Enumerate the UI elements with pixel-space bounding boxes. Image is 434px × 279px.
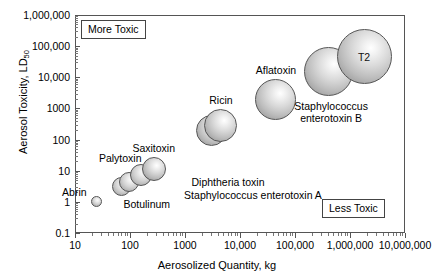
bubble-label-line: Botulinum xyxy=(123,198,170,210)
y-minor-tick xyxy=(75,115,78,116)
y-minor-tick xyxy=(75,125,78,126)
y-minor-tick xyxy=(75,121,78,122)
y-minor-tick xyxy=(75,48,78,49)
annotation-diphtheria-toxin: Diphtheria toxin xyxy=(192,176,265,188)
x-tick xyxy=(130,233,131,238)
x-tick xyxy=(75,233,76,238)
x-tick xyxy=(350,233,351,238)
bubble-label-staphylococcus-enterotoxin-b: Staphylococcusenterotoxin B xyxy=(294,100,368,124)
x-minor-tick xyxy=(266,233,267,236)
x-tick-label: 10 xyxy=(69,240,81,250)
y-minor-tick xyxy=(75,62,78,63)
y-minor-tick xyxy=(75,90,78,91)
y-minor-tick xyxy=(75,207,78,208)
y-minor-tick xyxy=(75,172,78,173)
y-minor-tick xyxy=(75,211,78,212)
x-tick xyxy=(185,233,186,238)
bubble-label-line: Staphylococcus xyxy=(294,100,368,112)
y-tick-label: 1 xyxy=(64,197,70,207)
x-minor-tick xyxy=(176,233,177,236)
x-minor-tick xyxy=(347,233,348,236)
y-tick-label: 1,000,000 xyxy=(23,10,70,20)
y-axis-title-text: Aerosol Toxicity, LD xyxy=(17,58,29,154)
y-minor-tick xyxy=(75,31,78,32)
x-minor-tick xyxy=(182,233,183,236)
x-minor-tick xyxy=(338,233,339,236)
x-minor-tick xyxy=(118,233,119,236)
x-minor-tick xyxy=(235,233,236,236)
y-minor-tick xyxy=(75,152,78,153)
y-minor-tick xyxy=(75,22,78,23)
x-minor-tick xyxy=(393,233,394,236)
less-toxic-tag: Less Toxic xyxy=(322,199,385,218)
y-minor-tick xyxy=(75,87,78,88)
y-minor-tick xyxy=(75,59,78,60)
x-minor-tick xyxy=(92,233,93,236)
y-tick-label: 10,000 xyxy=(38,72,70,82)
x-tick xyxy=(240,233,241,238)
y-minor-tick xyxy=(75,27,78,28)
x-minor-tick xyxy=(163,233,164,236)
y-minor-tick xyxy=(75,183,78,184)
x-minor-tick xyxy=(290,233,291,236)
y-tick-label: 1000 xyxy=(47,103,70,113)
x-minor-tick xyxy=(376,233,377,236)
y-minor-tick xyxy=(75,156,78,157)
x-minor-tick xyxy=(127,233,128,236)
y-minor-tick xyxy=(75,144,78,145)
x-minor-tick xyxy=(113,233,114,236)
x-tick xyxy=(405,233,406,238)
x-minor-tick xyxy=(173,233,174,236)
x-minor-tick xyxy=(121,233,122,236)
y-tick-label: 100 xyxy=(52,135,70,145)
y-minor-tick xyxy=(75,141,78,142)
bubble-label-aflatoxin: Aflatoxin xyxy=(256,64,296,76)
y-tick-label: 0.1 xyxy=(55,228,70,238)
bubble-saxitoxin xyxy=(142,157,166,181)
x-minor-tick xyxy=(278,233,279,236)
bubble-label-line: enterotoxin B xyxy=(294,112,368,124)
y-minor-tick xyxy=(75,110,78,111)
x-minor-tick xyxy=(341,233,342,236)
y-minor-tick xyxy=(75,218,78,219)
x-minor-tick xyxy=(383,233,384,236)
x-minor-tick xyxy=(257,233,258,236)
y-minor-tick xyxy=(75,51,78,52)
y-minor-tick xyxy=(75,224,78,225)
y-minor-tick xyxy=(75,146,78,147)
x-minor-tick xyxy=(223,233,224,236)
x-minor-tick xyxy=(292,233,293,236)
more-toxic-tag: More Toxic xyxy=(81,20,146,39)
bubble-label-ricin-b: Ricin xyxy=(209,94,232,106)
bubble-aflatoxin xyxy=(255,79,296,120)
y-minor-tick xyxy=(75,149,78,150)
x-minor-tick xyxy=(321,233,322,236)
bubble-label-saxitoxin: Saxitoxin xyxy=(132,142,175,154)
y-minor-tick xyxy=(75,209,78,210)
x-tick-label: 10,000 xyxy=(224,240,256,250)
x-minor-tick xyxy=(180,233,181,236)
y-minor-tick xyxy=(75,49,78,50)
y-axis-labels: 1,000,000100,00010,00010001001010.1 xyxy=(0,0,70,279)
y-minor-tick xyxy=(75,18,78,19)
y-minor-tick xyxy=(75,178,78,179)
y-tick-label: 10 xyxy=(58,166,70,176)
x-minor-tick xyxy=(388,233,389,236)
x-minor-tick xyxy=(237,233,238,236)
x-minor-tick xyxy=(108,233,109,236)
y-minor-tick xyxy=(75,16,78,17)
x-minor-tick xyxy=(202,233,203,236)
y-minor-tick xyxy=(75,53,78,54)
y-minor-tick xyxy=(75,94,78,95)
annotation-staphylococcus-enterotoxin-a: Staphylococcus enterotoxin A xyxy=(184,189,322,201)
x-minor-tick xyxy=(312,233,313,236)
x-tick xyxy=(295,233,296,238)
x-minor-tick xyxy=(345,233,346,236)
bubble-label-line: Abrin xyxy=(62,186,87,198)
bubble-label-abrin: Abrin xyxy=(62,186,87,198)
bubble-label-t2: T2 xyxy=(358,51,370,63)
y-minor-tick xyxy=(75,80,78,81)
y-minor-tick xyxy=(75,111,78,112)
y-minor-tick xyxy=(75,161,78,162)
x-minor-tick xyxy=(147,233,148,236)
